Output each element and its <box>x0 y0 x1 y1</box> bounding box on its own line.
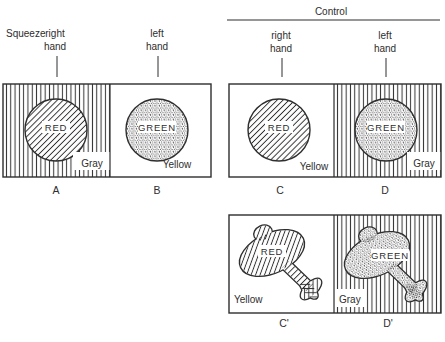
figure: Squeeze right hand left hand Control rig… <box>0 0 445 342</box>
panel-c-letter: C <box>276 184 284 196</box>
corner-word: Yellow <box>234 294 263 305</box>
panel-d-letter: D <box>381 184 389 196</box>
stimulus-word: GREEN <box>367 122 405 133</box>
svg-text:right: right <box>45 28 65 39</box>
control-header: Control <box>227 6 440 20</box>
stimulus-word: RED <box>261 246 283 257</box>
panel-a-letter: A <box>52 184 59 196</box>
stimulus-word: RED <box>268 122 290 133</box>
control-right-hand-label: right hand <box>270 30 292 77</box>
squeeze-left-hand-label: left hand <box>146 28 168 77</box>
header-annotations: Squeeze right hand left hand Control rig… <box>6 6 440 77</box>
control-label: Control <box>315 6 347 17</box>
svg-text:hand: hand <box>270 43 292 54</box>
red-airplane-shape <box>233 221 324 302</box>
panel-b-letter: B <box>153 184 160 196</box>
panel-c-prime: RED Yellow <box>233 221 324 305</box>
stimulus-word: GREEN <box>138 122 176 133</box>
figure-canvas: Squeeze right hand left hand Control rig… <box>0 0 445 342</box>
svg-text:hand: hand <box>44 41 66 52</box>
panel-a: RED Gray <box>3 84 110 177</box>
svg-text:right: right <box>271 30 291 41</box>
control-left-hand-label: left hand <box>374 30 396 77</box>
corner-word: Gray <box>413 158 435 169</box>
panel-c: RED Yellow <box>248 99 329 172</box>
squeeze-right-hand-label: right hand <box>44 28 66 77</box>
panel-c-prime-letter: C' <box>279 317 289 329</box>
svg-text:left: left <box>378 30 392 41</box>
panel-d-prime-letter: D' <box>383 317 393 329</box>
panel-d: GREEN Gray <box>334 84 441 177</box>
corner-word: Gray <box>81 158 103 169</box>
stimulus-word: GREEN <box>371 250 409 261</box>
corner-word: Yellow <box>163 159 192 170</box>
corner-word: Gray <box>339 294 361 305</box>
corner-word: Yellow <box>300 161 329 172</box>
panel-b: GREEN Yellow <box>126 99 192 170</box>
svg-text:left: left <box>150 28 164 39</box>
svg-text:hand: hand <box>374 43 396 54</box>
stimulus-word: RED <box>45 122 67 133</box>
svg-text:hand: hand <box>146 41 168 52</box>
panel-d-prime: GREEN Gray <box>334 215 441 313</box>
squeeze-label: Squeeze <box>6 28 46 39</box>
